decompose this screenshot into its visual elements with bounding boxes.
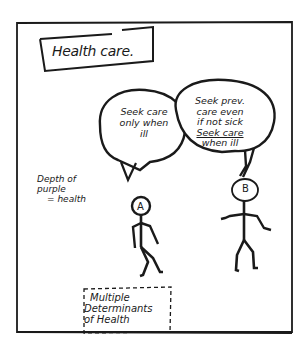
speech-b-line-3: if not sick — [180, 117, 260, 128]
footer-box-text: Multiple Determinants of Health — [84, 292, 164, 325]
note-line-1: Depth of — [37, 174, 86, 184]
comic-panel: Health care. Seek care only when ill See… — [0, 0, 307, 358]
speech-b-line-5: when ill — [180, 138, 260, 149]
speech-b-line-1: Seek prev. — [180, 96, 260, 107]
note-line-2: purple — [37, 184, 86, 194]
speech-text-a: Seek care only when ill — [104, 106, 184, 139]
figure-b-label: B — [242, 183, 249, 194]
depth-note: Depth of purple = health — [37, 174, 86, 204]
panel-title: Health care. — [52, 44, 134, 59]
footer-line-1: Multiple — [84, 292, 164, 303]
speech-text-b: Seek prev. care even if not sick Seek ca… — [180, 96, 260, 149]
footer-line-3: of Health — [84, 314, 164, 325]
speech-a-line-2: only when — [104, 117, 184, 128]
footer-line-2: Determinants — [84, 303, 164, 314]
speech-a-line-3: ill — [104, 128, 184, 139]
speech-a-line-1: Seek care — [104, 106, 184, 117]
figure-a-label: A — [137, 201, 144, 212]
note-line-3: = health — [37, 194, 86, 204]
